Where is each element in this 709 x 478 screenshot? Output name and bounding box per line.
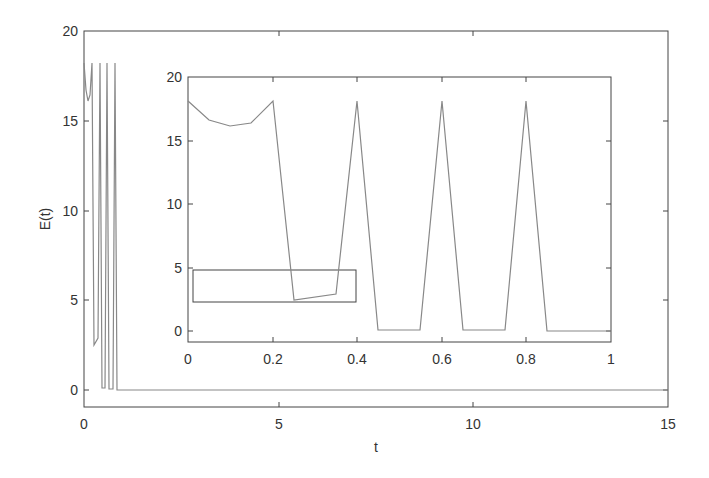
main-xtick: 10 <box>465 416 481 432</box>
figure: 0 5 10 15 20 0 5 10 15 t E(t) <box>0 0 709 478</box>
inset-ytick: 5 <box>174 260 182 276</box>
inset-axes: 0 5 10 15 20 0 0.2 0.4 0.6 0.8 1 <box>166 69 615 367</box>
inset-ytick: 10 <box>166 196 182 212</box>
inset-ytick: 20 <box>166 69 182 85</box>
main-xtick: 15 <box>660 416 676 432</box>
inset-xtick: 0.4 <box>347 351 367 367</box>
main-xtick: 0 <box>80 416 88 432</box>
main-ytick: 0 <box>70 382 78 398</box>
inset-xtick: 0.2 <box>263 351 283 367</box>
inset-xtick: 0.8 <box>516 351 536 367</box>
y-axis-label: E(t) <box>37 208 53 231</box>
main-ytick: 15 <box>62 113 78 129</box>
inset-xtick: 0 <box>184 351 192 367</box>
main-xtick: 5 <box>275 416 283 432</box>
main-ytick: 10 <box>62 203 78 219</box>
inset-xtick: 1 <box>607 351 615 367</box>
inset-ytick: 0 <box>174 323 182 339</box>
inset-ytick: 15 <box>166 133 182 149</box>
x-axis-label: t <box>374 439 378 455</box>
main-ytick: 5 <box>70 292 78 308</box>
inset-xtick: 0.6 <box>432 351 452 367</box>
main-ytick: 20 <box>62 23 78 39</box>
